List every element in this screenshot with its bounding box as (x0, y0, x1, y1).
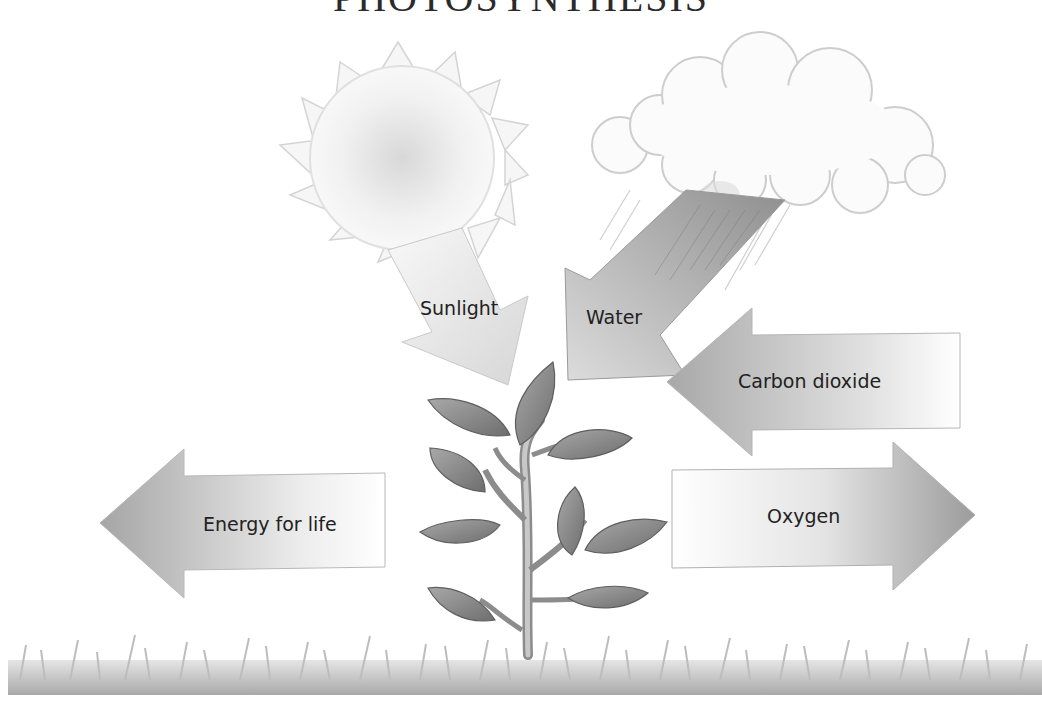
photosynthesis-diagram (0, 0, 1042, 711)
sun-icon (280, 42, 528, 272)
plant-icon (420, 362, 667, 655)
sunlight-label: Sunlight (420, 297, 498, 319)
energy-for-life-label: Energy for life (203, 513, 337, 535)
oxygen-label: Oxygen (767, 505, 840, 527)
water-label: Water (586, 306, 642, 328)
carbon-dioxide-label: Carbon dioxide (738, 370, 881, 392)
